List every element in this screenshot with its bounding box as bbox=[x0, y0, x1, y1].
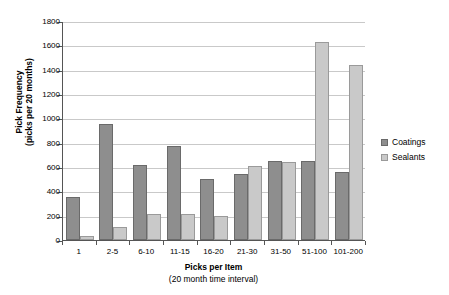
bar-sealants bbox=[147, 214, 161, 240]
bar-group bbox=[164, 22, 198, 240]
bars-layer bbox=[63, 22, 365, 240]
y-axis-title-main: Pick Frequency bbox=[14, 22, 24, 182]
bar-group bbox=[299, 22, 333, 240]
y-tick-label: 1600 bbox=[42, 42, 60, 50]
x-tick-mark bbox=[197, 241, 198, 245]
x-tick-label: 11-15 bbox=[163, 247, 197, 256]
x-axis-title: Picks per Item bbox=[62, 262, 365, 273]
legend-label: Sealants bbox=[392, 151, 425, 164]
y-tick-label: 1200 bbox=[42, 91, 60, 99]
y-tick-label: 1400 bbox=[42, 67, 60, 75]
y-tick-label: 1000 bbox=[42, 115, 60, 123]
x-tick-mark bbox=[163, 241, 164, 245]
bar-sealants bbox=[80, 236, 94, 240]
legend-item-sealants[interactable]: Sealants bbox=[381, 151, 426, 164]
bar-sealants bbox=[282, 162, 296, 240]
y-axis-title: Pick Frequency (picks per 20 months) bbox=[14, 22, 34, 182]
legend-swatch-sealants bbox=[381, 154, 388, 161]
x-tick-label: 101-200 bbox=[331, 247, 365, 256]
bar-group bbox=[332, 22, 366, 240]
x-tick-mark bbox=[331, 241, 332, 245]
y-tick-label: 600 bbox=[47, 164, 60, 172]
legend: CoatingsSealants bbox=[381, 136, 426, 166]
bar-chart: 020040060080010001200140016001800 Pick F… bbox=[0, 0, 449, 295]
x-axis-subtitle: (20 month time interval) bbox=[62, 274, 365, 285]
x-tick-label: 16-20 bbox=[197, 247, 231, 256]
bar-coatings bbox=[99, 124, 113, 240]
y-tick-label: 800 bbox=[47, 140, 60, 148]
bar-coatings bbox=[301, 161, 315, 240]
x-tick-mark bbox=[129, 241, 130, 245]
x-tick-mark bbox=[298, 241, 299, 245]
legend-label: Coatings bbox=[392, 136, 426, 149]
bar-coatings bbox=[234, 174, 248, 240]
x-tick-mark bbox=[230, 241, 231, 245]
x-tick-label: 21-30 bbox=[230, 247, 264, 256]
x-tick-mark bbox=[96, 241, 97, 245]
bar-group bbox=[198, 22, 232, 240]
bar-coatings bbox=[200, 179, 214, 240]
x-tick-label: 51-100 bbox=[298, 247, 332, 256]
bar-sealants bbox=[181, 214, 195, 240]
x-tick-mark bbox=[62, 241, 63, 245]
y-tick-label: 200 bbox=[47, 213, 60, 221]
x-tick-mark bbox=[264, 241, 265, 245]
x-tick-label: 6-10 bbox=[129, 247, 163, 256]
bar-coatings bbox=[66, 197, 80, 240]
bar-sealants bbox=[248, 166, 262, 240]
y-tick-label: 1800 bbox=[42, 18, 60, 26]
bar-group bbox=[63, 22, 97, 240]
bar-sealants bbox=[113, 227, 127, 240]
bar-sealants bbox=[315, 42, 329, 240]
x-tick-label: 1 bbox=[62, 247, 96, 256]
x-tick-label: 31-50 bbox=[264, 247, 298, 256]
legend-swatch-coatings bbox=[381, 139, 388, 146]
bar-group bbox=[97, 22, 131, 240]
bar-coatings bbox=[268, 161, 282, 240]
bar-group bbox=[231, 22, 265, 240]
x-tick-mark bbox=[365, 241, 366, 245]
bar-coatings bbox=[167, 146, 181, 240]
y-axis-title-sub: (picks per 20 months) bbox=[24, 22, 34, 182]
bar-coatings bbox=[335, 172, 349, 240]
y-tick-label: 400 bbox=[47, 188, 60, 196]
bar-coatings bbox=[133, 165, 147, 240]
legend-item-coatings[interactable]: Coatings bbox=[381, 136, 426, 149]
bar-group bbox=[130, 22, 164, 240]
bar-sealants bbox=[214, 216, 228, 240]
bar-sealants bbox=[349, 65, 363, 240]
y-tick-label: 0 bbox=[56, 237, 60, 245]
x-tick-label: 2-5 bbox=[96, 247, 130, 256]
bar-group bbox=[265, 22, 299, 240]
